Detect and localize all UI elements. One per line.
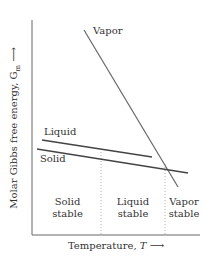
solid-stable-region: Solid stable — [45, 196, 90, 220]
gibbs-energy-diagram — [0, 0, 214, 263]
liquid-label: Liquid — [44, 126, 76, 137]
y-axis-label: Molar Gibbs free energy, Gm ⟶ — [8, 47, 22, 208]
x-axis-label: Temperature, T ⟶ — [0, 240, 214, 251]
vapor-stable-region: Vapor stable — [166, 196, 202, 220]
liquid-stable-region: Liquid stable — [108, 196, 158, 220]
vapor-label: Vapor — [93, 25, 122, 36]
solid-label: Solid — [40, 153, 66, 164]
